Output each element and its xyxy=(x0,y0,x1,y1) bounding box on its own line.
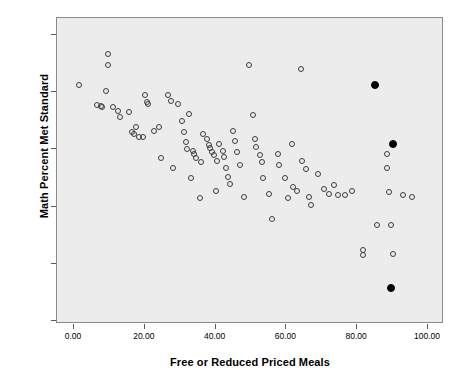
x-tick-mark xyxy=(285,324,286,329)
data-point xyxy=(197,195,203,201)
data-point xyxy=(349,188,355,194)
data-point xyxy=(384,151,390,157)
data-point xyxy=(294,188,300,194)
data-point xyxy=(115,108,121,114)
data-point xyxy=(409,194,415,200)
data-point xyxy=(126,109,132,115)
x-tick-label: 40.00 xyxy=(185,331,245,341)
data-point xyxy=(308,202,314,208)
data-point xyxy=(257,152,263,158)
x-tick-mark xyxy=(215,324,216,329)
data-point-filled xyxy=(389,140,397,148)
data-point xyxy=(237,162,243,168)
plot-area xyxy=(56,17,443,323)
data-point xyxy=(335,192,341,198)
data-point xyxy=(326,191,332,197)
data-point xyxy=(220,148,226,154)
y-axis-title: Math Percent Met Standard xyxy=(38,6,50,286)
x-tick-label: 100.00 xyxy=(397,331,457,341)
data-point xyxy=(221,154,227,160)
data-point xyxy=(388,222,394,228)
data-point xyxy=(250,112,256,118)
data-point xyxy=(232,138,238,144)
data-point xyxy=(142,92,148,98)
data-point xyxy=(386,189,392,195)
data-point xyxy=(175,101,181,107)
data-point xyxy=(156,124,162,130)
x-tick-mark xyxy=(356,324,357,329)
x-tick-mark xyxy=(73,324,74,329)
x-tick-mark xyxy=(427,324,428,329)
data-point xyxy=(299,158,305,164)
data-point xyxy=(306,194,312,200)
data-point xyxy=(216,141,222,147)
data-point xyxy=(158,155,164,161)
data-point xyxy=(260,175,266,181)
data-point xyxy=(140,134,146,140)
data-point xyxy=(282,175,288,181)
data-point xyxy=(183,139,189,145)
data-point xyxy=(252,136,258,142)
data-point xyxy=(227,181,233,187)
data-point xyxy=(223,165,229,171)
data-point xyxy=(170,165,176,171)
data-point xyxy=(360,252,366,258)
data-point xyxy=(241,194,247,200)
data-point xyxy=(246,62,252,68)
data-point xyxy=(117,114,123,120)
data-point xyxy=(230,128,236,134)
data-point-filled xyxy=(387,284,395,292)
x-tick-label: 0.00 xyxy=(43,331,103,341)
data-point xyxy=(179,118,185,124)
data-point xyxy=(259,159,265,165)
data-point xyxy=(303,166,309,172)
data-point xyxy=(198,159,204,165)
data-point xyxy=(76,82,82,88)
x-axis-title: Free or Reduced Priced Meals xyxy=(56,356,444,368)
data-point xyxy=(181,129,187,135)
data-point xyxy=(331,182,337,188)
data-point xyxy=(99,104,105,110)
data-point xyxy=(213,188,219,194)
data-point xyxy=(289,141,295,147)
data-point xyxy=(269,216,275,222)
data-point xyxy=(384,165,390,171)
x-tick-label: 20.00 xyxy=(114,331,174,341)
data-point xyxy=(168,98,174,104)
data-point xyxy=(186,111,192,117)
x-tick-mark xyxy=(144,324,145,329)
data-point xyxy=(225,174,231,180)
data-point xyxy=(234,149,240,155)
data-point xyxy=(342,192,348,198)
data-point xyxy=(253,144,259,150)
data-point xyxy=(105,51,111,57)
data-point xyxy=(400,192,406,198)
data-point xyxy=(105,62,111,68)
data-point xyxy=(315,171,321,177)
data-point xyxy=(214,158,220,164)
data-point xyxy=(133,124,139,130)
data-point xyxy=(276,162,282,168)
data-point-filled xyxy=(371,81,379,89)
data-point xyxy=(275,151,281,157)
data-point xyxy=(390,251,396,257)
data-point xyxy=(103,88,109,94)
data-point xyxy=(266,191,272,197)
data-point xyxy=(145,101,151,107)
data-point xyxy=(285,195,291,201)
scatter-chart: Math Percent Met Standard Free or Reduce… xyxy=(0,0,460,383)
x-tick-label: 80.00 xyxy=(326,331,386,341)
data-point xyxy=(298,66,304,72)
x-tick-label: 60.00 xyxy=(255,331,315,341)
data-point xyxy=(188,175,194,181)
data-point xyxy=(374,222,380,228)
